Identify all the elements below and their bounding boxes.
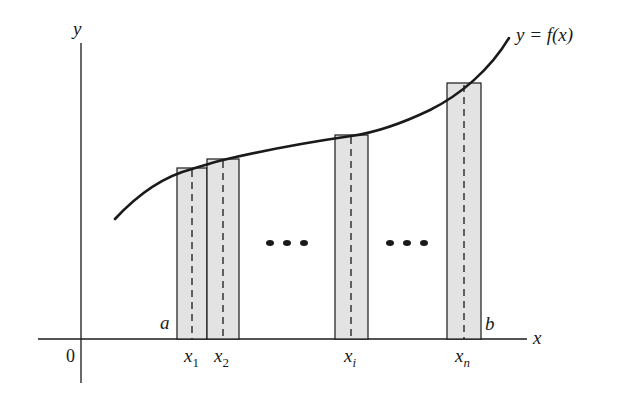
ellipsis-left xyxy=(266,240,308,246)
curve-label: y = f(x) xyxy=(514,24,573,46)
bar-xn xyxy=(447,83,481,339)
bar-xi xyxy=(335,135,368,339)
sample-label-xn: xn xyxy=(454,345,470,370)
bar-x1 xyxy=(177,168,207,339)
x-axis-label: x xyxy=(532,327,542,348)
interval-end-label: b xyxy=(485,313,495,334)
interval-start-label: a xyxy=(160,312,170,333)
origin-label: 0 xyxy=(66,346,75,366)
sample-label-x1: x1 xyxy=(183,345,199,370)
y-axis-label: y xyxy=(71,18,82,39)
sample-label-x2: x2 xyxy=(213,345,229,370)
sample-label-xi: xi xyxy=(343,345,356,370)
bar-x2 xyxy=(207,159,239,339)
riemann-sum-diagram: y x 0 y = f(x) a b x1 x2 xi xn xyxy=(0,0,618,394)
ellipsis-right xyxy=(386,240,428,246)
